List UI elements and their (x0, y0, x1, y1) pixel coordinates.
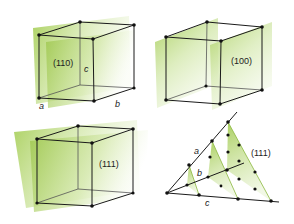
plane-110-front (46, 30, 135, 108)
axis-label-a: a (39, 101, 44, 111)
cube-110-panel: (110) c a b (33, 16, 136, 111)
crystal-planes-figure: (110) c a b (100) (0, 0, 294, 224)
plane-label-110: (110) (53, 58, 73, 68)
plane-label-111-lattice: (111) (251, 148, 271, 158)
lattice-axis-label-a: a (194, 146, 199, 156)
plane-label-100: (100) (231, 56, 252, 66)
lattice-axis-label-b: b (197, 168, 202, 178)
lattice-111-panel: a b c (111) (165, 112, 279, 208)
cube-111-panel: (111) (14, 120, 148, 212)
axis-label-b: b (115, 99, 120, 109)
axis-label-c: c (84, 64, 89, 74)
plane-100-left (155, 18, 218, 108)
cube-100-panel: (100) (155, 18, 272, 110)
lattice-axis-label-c: c (205, 198, 210, 208)
plane-label-111-cube: (111) (99, 159, 119, 169)
